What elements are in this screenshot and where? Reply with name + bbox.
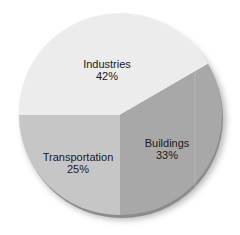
slice-label: Transportation (43, 151, 114, 163)
label-transportation: Transportation 25% (43, 151, 114, 175)
slice-percent: 25% (43, 163, 114, 175)
pie-chart (0, 0, 240, 235)
slice-percent: 33% (145, 149, 190, 161)
slice-percent: 42% (83, 70, 131, 82)
label-industries: Industries 42% (83, 58, 131, 82)
slice-label: Buildings (145, 137, 190, 149)
label-buildings: Buildings 33% (145, 137, 190, 161)
slice-label: Industries (83, 58, 131, 70)
